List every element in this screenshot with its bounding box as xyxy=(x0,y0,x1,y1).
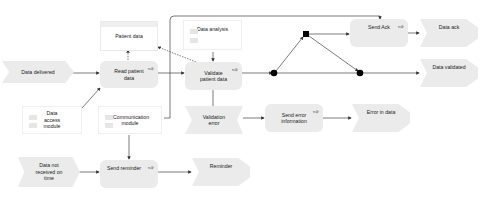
function-send-error-information[interactable]: Send error information ⇨ xyxy=(265,104,323,132)
event-validation-error[interactable]: Validation error xyxy=(185,106,243,134)
system-icon xyxy=(29,123,37,128)
system-icon xyxy=(105,115,113,120)
event-data-not-received[interactable]: Data not received on time xyxy=(18,157,80,187)
event-label: Reminder xyxy=(210,163,233,170)
process-arrow-icon: ⇨ xyxy=(313,109,319,116)
function-read-patient-data[interactable]: Read patient data ⇨ xyxy=(100,61,158,88)
event-data-validated[interactable]: Data validated xyxy=(420,59,478,87)
event-data-delivered[interactable]: Data delivered xyxy=(2,61,74,83)
system-label: Data access module xyxy=(39,110,65,130)
function-label: Send Ack xyxy=(368,24,390,31)
system-label: Communication module xyxy=(113,114,147,127)
process-arrow-icon: ⇨ xyxy=(232,67,238,74)
process-arrow-icon: ⇨ xyxy=(398,24,404,31)
system-icon xyxy=(29,115,37,120)
function-label: Send reminder xyxy=(107,165,141,172)
function-validate-patient-data[interactable]: Validate patient data ⇨ xyxy=(185,62,242,90)
system-data-access-module[interactable]: Data access module xyxy=(22,106,82,134)
system-icon xyxy=(105,123,113,128)
function-label: Read patient data xyxy=(114,68,144,81)
and-connector-1 xyxy=(271,70,278,77)
event-data-ack[interactable]: Data ack xyxy=(420,19,478,47)
function-send-reminder[interactable]: Send reminder ⇨ xyxy=(100,160,158,188)
system-label: Data analysis xyxy=(197,26,228,33)
system-icon xyxy=(190,38,198,43)
and-connector-2 xyxy=(357,70,364,77)
system-data-analysis[interactable]: Data analysis xyxy=(183,20,242,50)
event-reminder[interactable]: Reminder xyxy=(192,158,250,186)
process-arrow-icon: ⇨ xyxy=(148,66,154,73)
event-label: Data not received on time xyxy=(34,162,64,182)
event-label: Data validated xyxy=(432,64,465,71)
function-label: Send error information xyxy=(277,112,311,125)
system-communication-module[interactable]: Communication module xyxy=(98,106,162,134)
function-label: Validate patient data xyxy=(199,70,229,83)
function-send-ack[interactable]: Send Ack ⇨ xyxy=(350,19,408,47)
system-icon xyxy=(190,29,198,34)
event-error-in-data[interactable]: Error in data xyxy=(352,104,410,132)
event-label: Data delivered xyxy=(21,69,54,76)
info-patient-data[interactable]: Patient data xyxy=(100,21,158,51)
event-label: Error in data xyxy=(367,109,396,116)
event-label: Data ack xyxy=(439,24,459,31)
info-header-bar xyxy=(101,22,157,27)
info-label: Patient data xyxy=(115,33,143,40)
xor-connector xyxy=(303,31,309,37)
event-label: Validation error xyxy=(199,114,229,127)
process-arrow-icon: ⇨ xyxy=(148,165,154,172)
